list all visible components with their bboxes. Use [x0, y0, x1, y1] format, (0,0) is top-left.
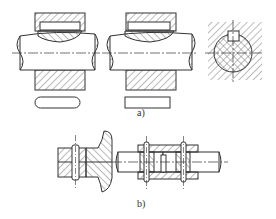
view-a2-shaft-hub-flat-key [102, 13, 198, 108]
view-a1-shaft-hub-rounded-key [12, 13, 100, 108]
subfigure-label-a: a) [137, 107, 145, 118]
view-a3-cross-section [205, 20, 262, 82]
view-b1-flange-pin [58, 131, 112, 192]
view-b2-sleeve-coupling-pins [112, 136, 228, 190]
subfigure-label-b: b) [137, 198, 145, 209]
